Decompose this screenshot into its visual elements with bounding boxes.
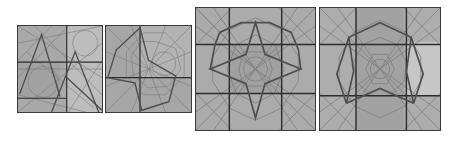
pattern-panel-4 bbox=[319, 7, 441, 131]
tiling-diagram-4 bbox=[320, 8, 440, 130]
tiling-diagram-2 bbox=[106, 26, 191, 112]
pattern-panel-3 bbox=[195, 7, 316, 131]
pattern-panel-1 bbox=[17, 25, 103, 113]
pattern-panel-2 bbox=[105, 25, 192, 113]
tiling-diagram-1 bbox=[18, 26, 102, 112]
tiling-diagram-3 bbox=[196, 8, 315, 130]
